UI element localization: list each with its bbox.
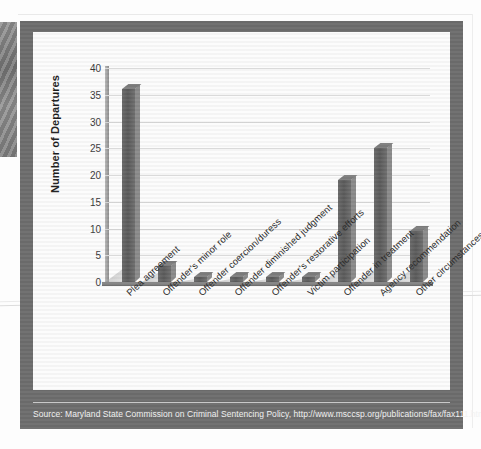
source-divider (33, 402, 450, 403)
y-axis-tick: 10 (75, 225, 101, 235)
y-axis-tick: 30 (75, 118, 101, 128)
bar-front-face (122, 89, 135, 282)
gridline (105, 122, 430, 123)
y-axis-tick: 25 (75, 144, 101, 154)
y-axis-tick: 5 (75, 251, 101, 261)
source-caption: Source: Maryland State Commission on Cri… (33, 409, 453, 419)
bar-column (122, 89, 135, 282)
y-axis-tick: 0 (75, 278, 101, 288)
gridline (105, 95, 430, 96)
y-axis-tick: 15 (75, 198, 101, 208)
bar-side-face (387, 144, 392, 282)
page-rule-top (18, 14, 473, 15)
y-axis-tick-labels: 4035302520151050 (71, 68, 101, 282)
plot-area (105, 68, 430, 282)
y-axis-title: Number of Departures (49, 49, 61, 219)
y-axis-tick: 40 (75, 64, 101, 74)
page-rule-right (472, 14, 473, 428)
chart-card: Number of Departures 4035302520151050 Pl… (33, 32, 450, 390)
y-axis-tick: 20 (75, 171, 101, 181)
figure-frame: Number of Departures 4035302520151050 Pl… (20, 21, 463, 429)
gridline (105, 68, 430, 69)
scan-edge-artifact (0, 22, 17, 157)
bar-side-face (135, 85, 140, 282)
bar-side-face (351, 176, 356, 282)
y-axis-tick: 35 (75, 91, 101, 101)
